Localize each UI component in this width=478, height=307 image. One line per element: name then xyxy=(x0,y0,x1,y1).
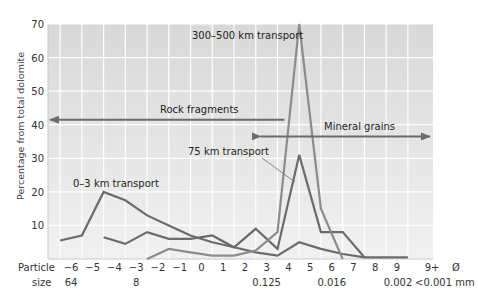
y-axis-label: Percentage from total dolomite xyxy=(15,52,26,200)
x-tick-mm: 64 xyxy=(65,277,78,288)
y-tick-label: 60 xyxy=(31,53,44,64)
x-tick-phi: 6 xyxy=(329,262,335,273)
x-tick-phi: −1 xyxy=(172,262,187,273)
x-tick-phi: 0 xyxy=(198,262,204,273)
x-tick-phi: −3 xyxy=(129,262,144,273)
y-tick-label: 30 xyxy=(31,153,44,164)
label-0-3km: 0–3 km transport xyxy=(73,178,159,189)
x-tick-phi: 9 xyxy=(394,262,400,273)
x-tick-mm: <0.001 mm xyxy=(415,277,475,288)
x-axis-label-particle: Particle xyxy=(18,262,55,273)
x-tick-phi: −5 xyxy=(85,262,100,273)
x-tick-mm: 0.002 xyxy=(384,277,413,288)
x-tick-phi: 5 xyxy=(307,262,313,273)
rock-fragments-label: Rock fragments xyxy=(160,104,239,115)
x-tick-phi: 4 xyxy=(285,262,291,273)
x-tick-phi: −4 xyxy=(107,262,122,273)
y-tick-label: 50 xyxy=(31,86,44,97)
mineral-grains-label: Mineral grains xyxy=(324,121,395,132)
y-tick-label: 20 xyxy=(31,187,44,198)
y-tick-label: 10 xyxy=(31,220,44,231)
x-axis-label-size: size xyxy=(32,277,51,288)
label-300-500km: 300–500 km transport xyxy=(192,30,303,41)
x-tick-phi: −2 xyxy=(151,262,166,273)
x-tick-mm: 8 xyxy=(133,277,139,288)
x-tick-phi: 2 xyxy=(242,262,248,273)
x-tick-phi: 9+ xyxy=(425,262,440,273)
x-tick-mm: 0.125 xyxy=(252,277,281,288)
dolomite-transport-chart: 10203040506070 Percentage from total dol… xyxy=(0,0,478,307)
x-tick-phi: Ø xyxy=(452,262,460,273)
y-tick-label: 40 xyxy=(31,120,44,131)
x-tick-phi: 1 xyxy=(220,262,226,273)
x-tick-phi: −6 xyxy=(64,262,79,273)
y-tick-label: 70 xyxy=(31,19,44,30)
x-axis-ticks: −6−5−4−3−2−101234567899+Ø6480.1250.0160.… xyxy=(64,262,475,288)
x-tick-mm: 0.016 xyxy=(317,277,346,288)
y-axis-ticks: 10203040506070 xyxy=(31,19,44,231)
x-tick-phi: 3 xyxy=(263,262,269,273)
plot-area xyxy=(48,24,433,259)
x-tick-phi: 7 xyxy=(350,262,356,273)
x-tick-phi: 8 xyxy=(372,262,378,273)
label-75km: 75 km transport xyxy=(188,146,269,157)
